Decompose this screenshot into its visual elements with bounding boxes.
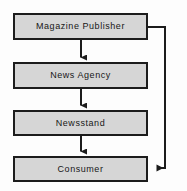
- node-label-newsstand: Newsstand: [56, 119, 105, 128]
- node-consumer[interactable]: Consumer: [13, 156, 148, 182]
- node-magazine-publisher[interactable]: Magazine Publisher: [13, 13, 148, 40]
- node-label-news-agency: News Agency: [50, 71, 111, 80]
- flowchart-diagram: Magazine Publisher News Agency Newsstand…: [0, 0, 187, 191]
- node-news-agency[interactable]: News Agency: [13, 62, 148, 89]
- connector-publisher-to-consumer-feedback: [148, 27, 165, 168]
- node-label-consumer: Consumer: [58, 165, 104, 174]
- node-label-magazine-publisher: Magazine Publisher: [36, 22, 125, 31]
- node-newsstand[interactable]: Newsstand: [13, 110, 148, 136]
